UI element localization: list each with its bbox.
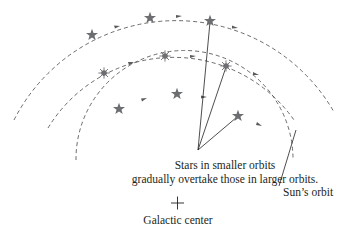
direction-arrows (114, 15, 262, 126)
galactic-center-label: Galactic center (140, 213, 216, 227)
star-icon (144, 12, 156, 23)
caption-line-1: Stars in smaller orbits (120, 158, 330, 172)
middle-orbit (48, 57, 294, 128)
burst-star-icon (159, 50, 170, 61)
caption-line-2: gradually overtake those in larger orbit… (120, 172, 330, 186)
burst-star-icon (220, 60, 231, 71)
star-icon (171, 88, 183, 99)
sun-orbit-label: Sun’s orbit (283, 185, 333, 199)
inner-orbit (76, 50, 293, 160)
orbit-diagram (0, 0, 351, 236)
burst-star-icon (98, 67, 109, 78)
star-icon (86, 29, 98, 40)
outer-orbit (14, 21, 334, 120)
star-icon (113, 103, 125, 114)
galactic-center-cross-icon (171, 197, 184, 210)
overtake-caption: Stars in smaller orbits gradually overta… (120, 158, 330, 186)
